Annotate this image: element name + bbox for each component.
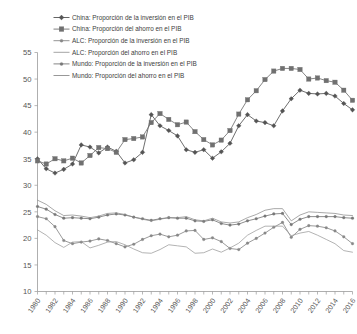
y-tick-label: 30 [23, 181, 31, 190]
legend-label-0: China: Proporción de la inversión en el … [72, 14, 194, 22]
data-point [342, 88, 346, 92]
data-point [246, 242, 249, 245]
x-tick-label: 2002 [218, 296, 235, 314]
data-point [306, 91, 311, 96]
data-point [184, 120, 188, 124]
x-tick-label: 2010 [288, 296, 305, 314]
data-point [193, 150, 198, 155]
x-tick-label: 1980 [26, 296, 43, 314]
data-point [264, 215, 267, 218]
x-tick-label: 2016 [341, 296, 357, 314]
data-point [272, 69, 276, 73]
data-point [158, 111, 162, 115]
x-tick-label: 2006 [253, 296, 270, 314]
data-point [202, 238, 205, 241]
legend-label-5: Mundo: Proporción del ahorro en el PIB [72, 72, 184, 80]
data-point [79, 161, 83, 165]
data-point [342, 235, 345, 238]
data-point [62, 239, 65, 242]
data-point [194, 229, 197, 232]
legend-marker-dot [60, 62, 63, 65]
data-point [324, 78, 328, 82]
data-point [140, 135, 144, 139]
data-point [315, 76, 319, 80]
data-point [325, 215, 328, 218]
data-point [316, 225, 319, 228]
y-tick-label: 10 [23, 287, 31, 296]
data-point [61, 167, 66, 172]
legend-marker-square [59, 27, 64, 32]
data-point [159, 233, 162, 236]
data-point [36, 205, 39, 208]
data-point [255, 217, 258, 220]
data-point [210, 143, 214, 147]
data-point [45, 217, 48, 220]
data-point [334, 215, 337, 218]
x-tick-label: 1996 [166, 296, 183, 314]
data-point [333, 80, 337, 84]
data-point [298, 67, 302, 71]
data-point [342, 216, 345, 219]
chart-legend: China: Proporción de la inversión en el … [54, 14, 197, 80]
data-point [272, 213, 275, 216]
data-point [124, 246, 127, 249]
x-tick-label: 2012 [306, 296, 323, 314]
data-point [351, 217, 354, 220]
data-point [281, 221, 284, 224]
x-tick-label: 2014 [323, 296, 340, 314]
data-point [54, 225, 57, 228]
data-point [325, 226, 328, 229]
data-point [62, 217, 65, 220]
data-point [237, 223, 240, 226]
data-point [80, 217, 83, 220]
data-point [271, 123, 276, 128]
data-point [237, 112, 241, 116]
data-point [246, 220, 249, 223]
data-point [307, 224, 310, 227]
data-point [184, 147, 189, 152]
data-point [245, 98, 249, 102]
y-tick-label: 45 [23, 101, 31, 110]
data-point [79, 143, 84, 148]
data-point [105, 146, 109, 150]
data-point [264, 232, 267, 235]
y-tick-label: 40 [23, 128, 31, 137]
data-point [255, 237, 258, 240]
data-point [185, 230, 188, 233]
x-tick-label: 1998 [183, 296, 200, 314]
data-point [350, 98, 354, 102]
legend-label-4: Mundo: Proporción de la inversión en el … [72, 60, 197, 68]
data-point [220, 240, 223, 243]
data-point [71, 216, 74, 219]
y-axis: 10152025303540455055 [23, 48, 37, 296]
data-point [97, 238, 100, 241]
x-tick-label: 1982 [43, 296, 60, 314]
y-tick-label: 55 [23, 48, 31, 57]
data-point [167, 235, 170, 238]
x-tick-label: 1988 [96, 296, 113, 314]
data-point [53, 171, 58, 176]
data-point [254, 89, 258, 93]
data-point [149, 120, 153, 124]
data-point [211, 237, 214, 240]
legend-marker-diamond [59, 15, 64, 20]
data-point [62, 159, 66, 163]
data-point [202, 137, 206, 141]
y-tick-label: 20 [23, 234, 31, 243]
data-point [175, 123, 179, 127]
data-point [193, 129, 197, 133]
data-point [219, 138, 223, 142]
data-point [53, 157, 57, 161]
data-point [96, 151, 101, 156]
x-axis: 1980198219841986198819901992199419961998… [26, 292, 357, 315]
y-tick-label: 25 [23, 208, 31, 217]
data-point [351, 242, 354, 245]
data-point [167, 117, 171, 121]
data-point [289, 66, 293, 70]
data-point [263, 77, 267, 81]
data-point [132, 136, 136, 140]
data-point [220, 222, 223, 225]
data-point [44, 162, 48, 166]
data-point [115, 242, 118, 245]
data-point [280, 66, 284, 70]
